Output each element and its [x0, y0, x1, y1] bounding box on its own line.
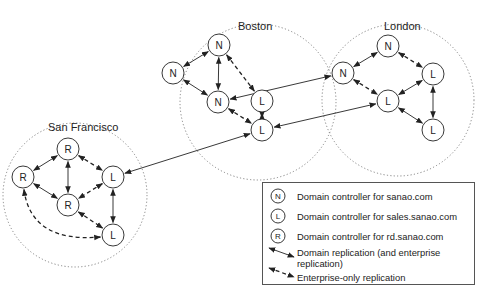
svg-text:L: L: [110, 172, 116, 183]
svg-text:L: L: [385, 96, 391, 107]
domain-replication-link: [34, 156, 58, 171]
dashed-arrow-icon: [266, 265, 298, 281]
domain-controller-node: N: [207, 91, 229, 113]
domain-controller-node: R: [12, 166, 34, 188]
domain-controller-node: N: [162, 62, 184, 84]
domain-replication-link: [125, 134, 250, 173]
enterprise-replication-link: [229, 109, 252, 124]
domain-controller-node: L: [102, 166, 124, 188]
domain-controller-node: N: [377, 35, 399, 57]
svg-text:N: N: [339, 68, 346, 79]
domain-controller-node: L: [422, 63, 444, 85]
enterprise-replication-link: [399, 53, 423, 68]
domain-controller-node: N: [208, 34, 230, 56]
legend-label-sales: Domain controller for sales.sanao.com: [297, 211, 457, 222]
site-label: London: [384, 20, 421, 32]
svg-text:R: R: [275, 232, 281, 241]
enterprise-replication-link: [354, 80, 378, 95]
site-label: San Francisco: [48, 121, 118, 133]
site-label: Boston: [238, 20, 272, 32]
svg-text:L: L: [430, 69, 436, 80]
solid-arrow-icon: [266, 245, 298, 261]
enterprise-replication-link: [79, 184, 103, 199]
domain-replication-link: [399, 80, 423, 94]
enterprise-replication-link: [78, 212, 102, 228]
domain-replication-link: [399, 108, 423, 123]
domain-replication-link: [184, 80, 208, 95]
legend: N Domain controller for sanao.com L Doma…: [262, 182, 475, 285]
legend-label-enterprise-only: Enterprise-only replication: [297, 272, 405, 283]
svg-text:L: L: [110, 230, 116, 241]
domain-replication-link: [184, 51, 209, 66]
svg-text:N: N: [275, 192, 281, 201]
domain-controller-node: R: [57, 138, 79, 160]
legend-label-domain-replication-2: replication): [297, 258, 343, 269]
domain-controller-node: L: [251, 90, 273, 112]
svg-text:N: N: [215, 40, 222, 51]
legend-label-domain-replication-1: Domain replication (and enterprise: [297, 247, 440, 258]
legend-icon-l: L: [270, 208, 286, 224]
domain-controller-node: L: [102, 224, 124, 246]
domain-replication-link: [218, 57, 219, 89]
domain-replication-link: [34, 184, 58, 199]
svg-text:N: N: [214, 97, 221, 108]
domain-controller-node: R: [57, 194, 79, 216]
legend-icon-n: N: [270, 188, 286, 204]
legend-label-rd: Domain controller for rd.sanao.com: [297, 231, 443, 242]
svg-text:R: R: [64, 200, 71, 211]
svg-text:R: R: [19, 172, 26, 183]
legend-icon-r: R: [270, 228, 286, 244]
legend-label-sanao: Domain controller for sanao.com: [297, 191, 432, 202]
domain-replication-link: [274, 104, 376, 127]
domain-controller-node: L: [377, 90, 399, 112]
svg-text:N: N: [169, 68, 176, 79]
site-labels: BostonLondonSan Francisco: [48, 20, 421, 133]
svg-text:R: R: [64, 144, 71, 155]
svg-text:L: L: [259, 125, 265, 136]
domain-controller-node: L: [251, 119, 273, 141]
domain-controller-node: L: [422, 119, 444, 141]
enterprise-replication-link: [79, 156, 103, 171]
svg-text:N: N: [384, 41, 391, 52]
domain-controller-node: N: [332, 62, 354, 84]
svg-text:L: L: [276, 212, 281, 221]
domain-replication-link: [354, 52, 378, 66]
svg-text:L: L: [430, 125, 436, 136]
svg-text:L: L: [259, 96, 265, 107]
enterprise-replication-link: [227, 55, 255, 91]
